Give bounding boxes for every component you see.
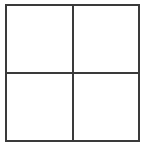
grid-cell-top-left <box>7 6 73 73</box>
grid-cell-top-right <box>73 6 139 73</box>
two-by-two-grid <box>5 4 140 142</box>
grid-cell-bottom-left <box>7 73 73 140</box>
grid-cell-bottom-right <box>73 73 139 140</box>
